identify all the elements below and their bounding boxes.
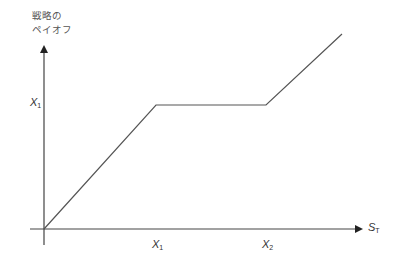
y-axis-title-line-1: 戦略の [32, 9, 72, 23]
y-tick-x1-sub: 1 [37, 102, 41, 109]
y-tick-x1: X1 [30, 96, 41, 109]
payoff-diagram [0, 0, 401, 268]
y-axis-title-line-2: ペイオフ [32, 23, 72, 37]
x-tick-x2-sub: 2 [269, 244, 273, 251]
payoff-line [44, 34, 342, 229]
x-axis-title-sub: T [375, 227, 379, 234]
x-tick-x1-sub: 1 [159, 244, 163, 251]
y-axis-title: 戦略の ペイオフ [32, 9, 72, 37]
x-tick-x2: X2 [262, 238, 273, 251]
x-axis-title: ST [368, 221, 380, 234]
x-tick-x1: X1 [152, 238, 163, 251]
